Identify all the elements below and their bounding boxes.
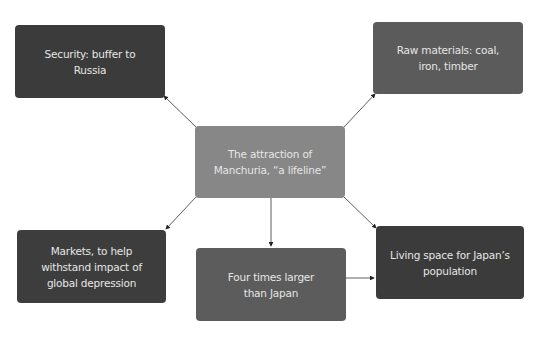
arrow-to-living-space [344, 197, 376, 228]
node-living-space: Living space for Japan’s population [376, 226, 524, 299]
node-label: Four times larger than Japan [219, 269, 324, 301]
node-four-times: Four times larger than Japan [196, 248, 346, 321]
node-security: Security: buffer to Russia [15, 25, 165, 98]
center-label: The attraction of Manchuria, “a lifeline… [203, 146, 337, 178]
node-label: Markets, to help withstand impact of glo… [25, 243, 158, 291]
node-raw-materials: Raw materials: coal, iron, timber [373, 22, 523, 94]
node-label: Living space for Japan’s population [388, 247, 513, 279]
node-label: Security: buffer to Russia [35, 46, 145, 78]
arrow-to-raw-materials [344, 94, 375, 127]
arrow-to-security [164, 96, 196, 127]
center-node: The attraction of Manchuria, “a lifeline… [195, 126, 345, 198]
node-label: Raw materials: coal, iron, timber [386, 42, 511, 74]
node-markets: Markets, to help withstand impact of glo… [17, 230, 166, 303]
arrow-to-markets [166, 197, 196, 229]
